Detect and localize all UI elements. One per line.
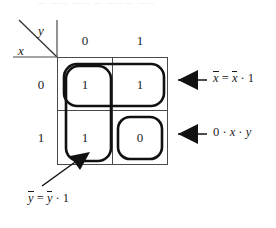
annotation-y-complement-const: 1 [63, 191, 69, 205]
annotation-x-complement: x = x · 1 [213, 70, 254, 86]
annotation-x-complement-rhs: x [232, 71, 238, 85]
annotation-x-complement-const: 1 [248, 71, 254, 85]
annotation-x-complement-dot: · [241, 71, 245, 85]
clipped-caption-fragment: — —— —— — ——— —— [38, 0, 268, 5]
annotation-x-complement-equals: = [222, 71, 229, 85]
annotation-y-complement-rhs: y [47, 191, 53, 205]
annotation-zero-product-var1: x [230, 125, 236, 139]
cell-x0-y0-value: 1 [75, 78, 95, 91]
annotation-zero-product: 0 · x · y [213, 125, 251, 140]
cell-x0-y1-value: 1 [130, 78, 150, 91]
annotation-x-complement-lhs: x [213, 71, 219, 85]
column-header-1: 1 [129, 34, 151, 47]
axis-label-x: x [18, 44, 24, 57]
annotation-y-complement-equals: = [37, 191, 44, 205]
row-header-1: 1 [32, 131, 50, 144]
cell-x1-y1-value: 0 [130, 131, 150, 144]
arrow-to-group-single-zero [178, 124, 207, 144]
annotation-y-complement: y = y · 1 [28, 190, 69, 206]
arrow-to-group-top-row [178, 70, 207, 90]
column-header-0: 0 [74, 34, 96, 47]
annotation-zero-product-dot1: · [222, 125, 226, 139]
karnaugh-map-figure: — —— —— — ——— —— y x 0 1 0 1 1 1 1 0 [0, 0, 276, 228]
annotation-y-complement-dot: · [56, 191, 60, 205]
annotation-y-complement-lhs: y [28, 191, 34, 205]
cell-x1-y0-value: 1 [75, 131, 95, 144]
annotation-zero-product-dot2: · [238, 125, 242, 139]
annotation-zero-product-var2: y [246, 125, 252, 139]
annotation-zero-product-const: 0 [213, 125, 219, 139]
axis-label-y: y [38, 24, 44, 37]
row-header-0: 0 [32, 78, 50, 91]
kmap-grid-horizontal-divider [57, 110, 168, 111]
